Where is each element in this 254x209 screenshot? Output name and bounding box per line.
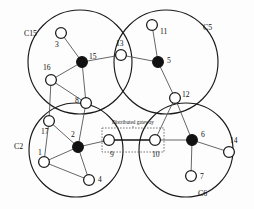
edge-n2-n8: [78, 103, 86, 147]
nodes-layer: [39, 20, 235, 186]
node-label-12: 12: [182, 90, 190, 99]
node-16-member[interactable]: [46, 75, 57, 86]
node-label-15: 15: [89, 52, 97, 61]
edge-n8-n15: [82, 62, 86, 103]
node-13-member[interactable]: [116, 50, 127, 61]
edge-n1-n4: [44, 162, 89, 180]
node-label-14: 14: [230, 136, 238, 145]
node-label-5: 5: [167, 56, 171, 65]
cluster-label-c5: C5: [203, 23, 212, 32]
node-10-gateway[interactable]: [150, 135, 161, 146]
node-label-4: 4: [98, 175, 102, 184]
cluster-label-c6: C6: [198, 189, 207, 198]
node-label-3: 3: [55, 40, 59, 49]
node-label-1: 1: [38, 148, 42, 157]
node-12-member[interactable]: [170, 93, 181, 104]
node-1-member[interactable]: [39, 157, 50, 168]
cluster-label-c15: C15: [24, 29, 37, 38]
network-topology-diagram: C15C5C2C6Distributed gateway315168131151…: [0, 0, 254, 209]
node-11-member[interactable]: [147, 20, 158, 31]
node-label-11: 11: [160, 27, 168, 36]
node-label-8: 8: [75, 96, 79, 105]
edge-n12-n6: [175, 98, 192, 140]
figure-container: C15C5C2C6Distributed gateway315168131151…: [0, 0, 254, 209]
edge-n10-n12: [155, 98, 175, 140]
node-4-member[interactable]: [84, 175, 95, 186]
node-label-17: 17: [41, 127, 49, 136]
node-label-2: 2: [71, 130, 75, 139]
node-2-cluster-head[interactable]: [73, 142, 84, 153]
node-8-member[interactable]: [81, 98, 92, 109]
node-label-9: 9: [110, 150, 114, 159]
node-6-cluster-head[interactable]: [187, 135, 198, 146]
cluster-label-c2: C2: [14, 142, 23, 151]
edges-layer: [44, 25, 229, 180]
node-9-gateway[interactable]: [104, 135, 115, 146]
node-17-member[interactable]: [44, 116, 55, 127]
node-label-7: 7: [200, 172, 204, 181]
node-label-13: 13: [116, 39, 124, 48]
edge-n16-n8: [51, 80, 86, 103]
node-label-16: 16: [43, 63, 51, 72]
node-3-member[interactable]: [56, 28, 67, 39]
edge-n16-n17: [49, 80, 51, 121]
node-14-member[interactable]: [224, 147, 235, 158]
node-15-cluster-head[interactable]: [77, 57, 88, 68]
labels-layer: C15C5C2C6Distributed gateway315168131151…: [14, 23, 238, 198]
distributed-gateway-annotation: Distributed gateway: [112, 119, 154, 125]
node-label-6: 6: [201, 130, 205, 139]
node-label-10: 10: [152, 150, 160, 159]
node-5-cluster-head[interactable]: [153, 57, 164, 68]
node-7-member[interactable]: [186, 171, 197, 182]
